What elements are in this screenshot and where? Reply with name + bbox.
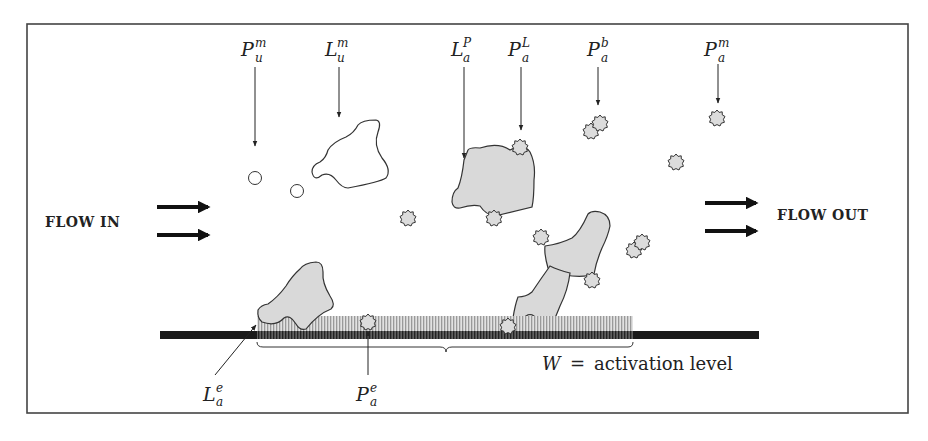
svg-text:P: P (355, 383, 370, 405)
svg-text:=: = (570, 353, 585, 374)
starburst-icon (584, 272, 600, 288)
membrane-bar-right (633, 331, 759, 339)
complex-upper-shape (545, 211, 610, 276)
activation-diagram: P m u L m u L P a P L a P b a P m a (0, 0, 928, 441)
membrane-bar-hatched (257, 331, 633, 339)
svg-text:m: m (255, 36, 266, 50)
svg-text:P: P (240, 38, 255, 60)
svg-text:P: P (586, 38, 601, 60)
svg-text:e: e (370, 381, 377, 395)
label-P-a-e: P e a (355, 381, 377, 409)
flow-in-label: FLOW IN (45, 214, 120, 230)
unbound-protein-circle (291, 185, 304, 198)
svg-text:a: a (463, 51, 470, 65)
unbound-protein-circle (249, 172, 262, 185)
svg-text:L: L (202, 383, 216, 405)
svg-text:W: W (542, 353, 562, 374)
svg-text:L: L (521, 36, 530, 50)
flow-in-arrows (157, 207, 208, 235)
svg-text:a: a (522, 51, 529, 65)
membrane-bar-left (160, 331, 257, 339)
starburst-icon (400, 210, 416, 226)
label-P-a-m: P m a (703, 36, 729, 65)
svg-text:m: m (718, 36, 729, 50)
label-L-a-e: L e a (202, 381, 223, 409)
label-L-u-m: L m u (324, 36, 348, 65)
label-P-a-L: P L a (507, 36, 530, 65)
svg-text:b: b (601, 36, 609, 50)
svg-text:u: u (255, 51, 263, 65)
svg-text:P: P (462, 36, 472, 50)
svg-text:activation level: activation level (594, 353, 733, 374)
activation-caption: W = activation level (542, 353, 733, 374)
svg-text:e: e (216, 381, 223, 395)
svg-text:L: L (324, 38, 338, 60)
starburst-icon (709, 110, 725, 126)
activation-brace (257, 342, 633, 352)
svg-text:a: a (601, 51, 608, 65)
starburst-icon (486, 210, 502, 226)
pointer-arrows (255, 64, 718, 158)
svg-text:a: a (370, 395, 377, 409)
svg-text:a: a (718, 51, 725, 65)
svg-text:P: P (507, 38, 522, 60)
starburst-icon (533, 229, 549, 245)
label-P-u-m: P m u (240, 36, 266, 65)
svg-text:P: P (703, 38, 718, 60)
svg-text:u: u (337, 51, 345, 65)
svg-text:a: a (216, 395, 223, 409)
starburst-icon (668, 154, 684, 170)
svg-text:L: L (450, 38, 464, 60)
unbound-ligand-shape (312, 120, 388, 188)
label-P-a-b: P b a (586, 36, 609, 65)
svg-text:m: m (337, 36, 348, 50)
flow-out-arrows (705, 203, 756, 231)
flow-out-label: FLOW OUT (777, 207, 868, 223)
figure-frame (27, 24, 908, 413)
label-L-a-P: L P a (450, 36, 472, 65)
